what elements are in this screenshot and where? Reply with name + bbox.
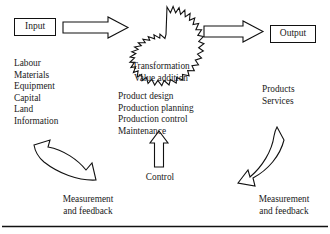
output-products-list: Products Services <box>262 84 328 107</box>
transformation-label: Transformation Value addition <box>106 61 216 84</box>
output-node: Output <box>270 25 316 43</box>
input-node-label: Input <box>25 22 45 32</box>
control-label: Control <box>128 172 192 184</box>
feedback-right-label: Measurement and feedback <box>238 194 330 217</box>
curved-feedback-arrow-left-icon <box>34 140 96 180</box>
feedback-left-label: Measurement and feedback <box>40 194 136 217</box>
input-node: Input <box>14 18 56 36</box>
curved-feedback-arrow-right-icon <box>238 127 284 186</box>
diagram-canvas: Input Output Labour Materials Equipment … <box>0 0 330 234</box>
input-resources-list: Labour Materials Equipment Capital Land … <box>14 58 98 128</box>
block-arrow-right-output-icon <box>204 21 263 42</box>
block-arrow-right-input-icon <box>63 17 128 38</box>
output-node-label: Output <box>280 29 306 39</box>
transformation-activities-list: Product design Production planning Produ… <box>118 91 228 137</box>
